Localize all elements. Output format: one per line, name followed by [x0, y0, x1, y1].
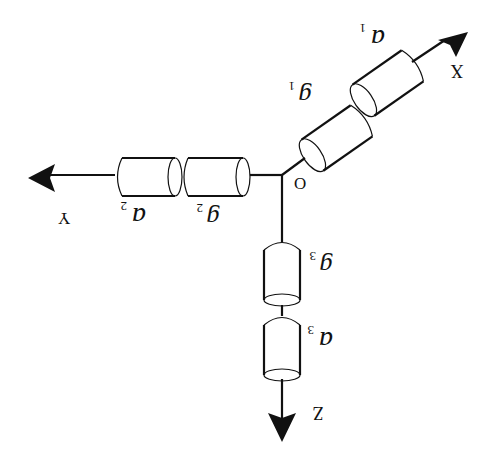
x-axis-label: X: [451, 61, 464, 81]
svg-text:a: a: [371, 24, 385, 55]
svg-text:g: g: [320, 252, 333, 281]
a1-label: a 1: [360, 21, 386, 55]
a3-label: a 3: [308, 323, 334, 357]
svg-text:a: a: [132, 202, 146, 233]
svg-text:1: 1: [289, 79, 296, 94]
svg-text:2: 2: [197, 201, 204, 216]
svg-text:3: 3: [308, 323, 315, 338]
x-arrowhead-icon: [438, 32, 468, 57]
svg-text:a: a: [319, 326, 333, 357]
svg-text:3: 3: [310, 249, 317, 264]
cylinder-a2: [118, 158, 183, 196]
a2-label: a 2: [121, 199, 147, 233]
origin-label: O: [294, 174, 306, 193]
y-axis: [50, 158, 282, 196]
g3-label: g 3: [310, 249, 333, 281]
cylinder-g3: [264, 243, 300, 307]
svg-text:1: 1: [360, 21, 367, 36]
z-axis: [264, 175, 300, 420]
z-axis-label: Z: [313, 403, 324, 423]
svg-text:g: g: [299, 82, 312, 111]
g2-label: g 2: [197, 201, 220, 233]
axes-diagram: O X a 1 g 1 Y a 2 g 2 g 3 a 3 Z: [0, 0, 499, 470]
y-arrowhead-icon: [28, 164, 55, 192]
cylinder-a3: [264, 318, 300, 382]
y-axis-label: Y: [58, 209, 70, 228]
g1-label: g 1: [289, 79, 312, 111]
svg-text:g: g: [207, 204, 220, 233]
svg-text:2: 2: [121, 199, 128, 214]
diagram-canvas: O X a 1 g 1 Y a 2 g 2 g 3 a 3 Z: [0, 0, 499, 470]
cylinder-g2: [184, 158, 250, 196]
